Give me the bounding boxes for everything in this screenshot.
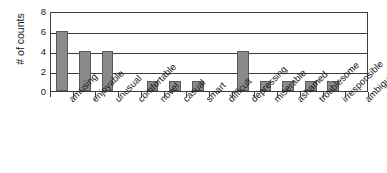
y-tick-label: 2 xyxy=(26,67,46,77)
y-tick-label: 4 xyxy=(26,47,46,57)
bar-chart: # of counts 02468 amusingenjoyableunusua… xyxy=(0,0,387,173)
x-axis-label: depressing xyxy=(249,97,256,104)
y-axis-title: # of counts xyxy=(14,0,26,84)
x-axis-label: miserable xyxy=(272,97,279,104)
x-axis-label: comfortable xyxy=(136,97,143,104)
x-axis-tick-labels: amusingenjoyableunusualcomfortablenovelc… xyxy=(50,97,368,171)
y-tick-label: 8 xyxy=(26,7,46,17)
bar-slot xyxy=(51,13,74,91)
x-axis-label: troublesome xyxy=(317,97,324,104)
y-tick-label: 0 xyxy=(26,87,46,97)
x-axis-label: ashamed xyxy=(295,97,302,104)
x-axis-label: novel xyxy=(158,97,165,104)
x-axis-label: enjoyable xyxy=(90,97,97,104)
x-axis-label: difficult xyxy=(226,97,233,104)
x-axis-label: casual xyxy=(181,97,188,104)
x-axis-label: amusing xyxy=(67,97,74,104)
x-axis-label: ambiguous xyxy=(363,97,370,104)
y-tick-label: 6 xyxy=(26,27,46,37)
y-axis-tick-labels: 02468 xyxy=(26,12,46,92)
x-axis-label: irresponsible xyxy=(340,97,347,104)
x-axis-label: smart xyxy=(204,97,211,104)
x-axis-label: unusual xyxy=(113,97,120,104)
bar xyxy=(56,31,68,91)
